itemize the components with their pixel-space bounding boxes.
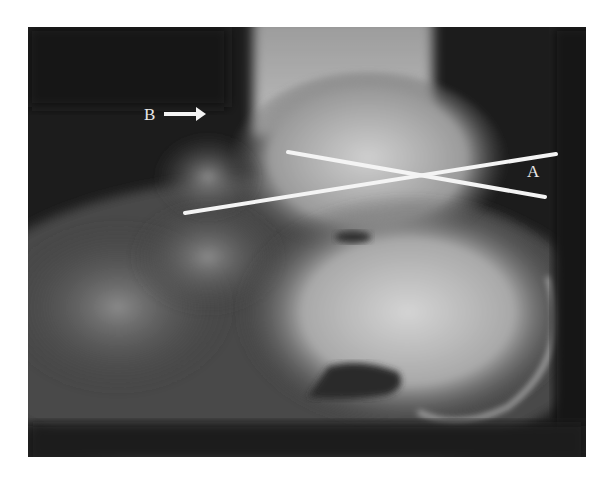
label-b: B	[144, 105, 156, 125]
label-a: A	[527, 162, 540, 182]
xray-image: A B	[28, 27, 586, 457]
xray-rendering	[28, 27, 586, 457]
